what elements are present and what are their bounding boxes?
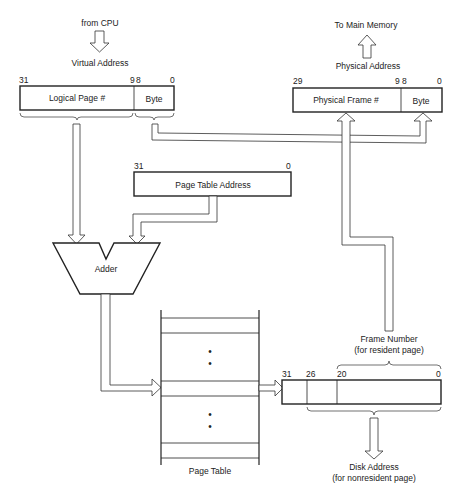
va-bit-8: 8	[136, 75, 141, 85]
page-table-entry-register	[282, 380, 441, 404]
frame-number-brace	[337, 361, 441, 369]
disk-address-label: Disk Address	[349, 462, 399, 472]
pa-bit-9: 9	[395, 76, 400, 86]
ellipsis-dot: •	[208, 358, 212, 369]
down-arrow-icon	[90, 31, 109, 52]
logical-page-pipe	[68, 124, 85, 244]
physical-frame-field: Physical Frame #	[313, 95, 379, 105]
pa-bit-29: 29	[293, 76, 303, 86]
page-table-entry-group: Frame Number (for resident page) 31 26 2…	[282, 334, 441, 483]
disk-address-note: (for nonresident page)	[332, 473, 416, 483]
pa-bit-8: 8	[402, 76, 407, 86]
pte-bit-26: 26	[306, 369, 316, 379]
logical-page-field: Logical Page #	[49, 93, 106, 103]
disk-address-arrow-icon	[365, 418, 383, 459]
pta-bit-31: 31	[134, 161, 144, 171]
va-bit-9: 9	[130, 75, 135, 85]
adder-output-pipe	[101, 294, 161, 396]
pte-bit-31: 31	[282, 369, 292, 379]
va-byte-brace	[135, 113, 174, 120]
logical-page-brace	[20, 113, 133, 120]
page-table-address-group: 31 0 Page Table Address	[134, 161, 291, 196]
byte-offset-pipe	[152, 113, 432, 143]
pte-bit-20: 20	[337, 369, 347, 379]
physical-address-group: To Main Memory Physical Address 29 9 8 0…	[293, 20, 442, 112]
disk-address-brace	[307, 407, 441, 415]
ellipsis-dot: •	[208, 421, 212, 432]
va-bit-31: 31	[19, 75, 29, 85]
to-main-memory-label: To Main Memory	[335, 20, 399, 30]
frame-number-pipe	[337, 113, 393, 331]
va-bit-0: 0	[170, 75, 175, 85]
entry-output-pipe	[259, 380, 283, 396]
pte-bit-0: 0	[436, 369, 441, 379]
page-table-address-pipe	[129, 196, 217, 244]
page-table-label: Page Table	[189, 466, 232, 476]
virtual-address-label: Virtual Address	[71, 58, 128, 68]
page-table-group: • • • • Page Table	[161, 310, 259, 476]
address-translation-diagram: from CPU Virtual Address 31 9 8 0 Logica…	[0, 0, 456, 494]
from-cpu-label: from CPU	[81, 18, 118, 28]
adder-group: Adder	[53, 243, 160, 294]
ellipsis-dot: •	[208, 346, 212, 357]
pta-bit-0: 0	[286, 161, 291, 171]
ellipsis-dot: •	[208, 409, 212, 420]
physical-address-label: Physical Address	[336, 61, 401, 71]
page-table-address-field: Page Table Address	[175, 180, 250, 190]
frame-number-label: Frame Number	[360, 334, 417, 344]
adder-label: Adder	[95, 264, 118, 274]
up-arrow-icon	[358, 35, 376, 58]
pa-byte-field: Byte	[412, 96, 429, 106]
frame-number-note: (for resident page)	[354, 345, 424, 355]
pa-bit-0: 0	[437, 76, 442, 86]
va-byte-field: Byte	[145, 94, 162, 104]
virtual-address-group: from CPU Virtual Address 31 9 8 0 Logica…	[19, 18, 175, 120]
